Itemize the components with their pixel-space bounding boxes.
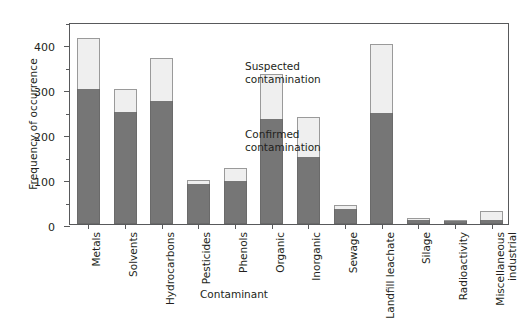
x-axis-label: Miscellaneous industrial: [495, 232, 518, 306]
x-tick: [492, 224, 493, 229]
bar-segment-suspected: [150, 58, 173, 101]
bar-segment-confirmed: [150, 101, 173, 224]
y-tick-label: 0: [48, 221, 55, 234]
x-tick: [345, 224, 346, 229]
bar-segment-suspected: [224, 168, 247, 181]
x-tick: [308, 224, 309, 229]
bar-segment-confirmed: [334, 209, 357, 224]
bar-group: [70, 24, 508, 224]
bar-segment-suspected: [77, 38, 100, 90]
y-tick-label: 100: [34, 176, 55, 189]
bar-landfill-leachate: [370, 44, 393, 224]
x-tick: [272, 224, 273, 229]
bar-pesticides: [187, 180, 210, 224]
x-axis-label: Radioactivity: [458, 232, 470, 300]
x-tick: [125, 224, 126, 229]
bar-solvents: [114, 89, 137, 224]
bar-hydrocarbons: [150, 58, 173, 224]
bar-segment-confirmed: [187, 184, 210, 224]
x-axis-label: Metals: [91, 232, 103, 266]
y-tick-label: 300: [34, 86, 55, 99]
bar-segment-confirmed: [297, 157, 320, 224]
plot-area: 0100200300400 Suspected contamination Co…: [69, 23, 509, 225]
x-axis-label: Pesticides: [201, 232, 213, 284]
annotation-confirmed: Confirmed contamination: [245, 128, 321, 154]
bar-segment-confirmed: [114, 112, 137, 224]
x-axis-label: Sewage: [348, 232, 360, 273]
x-tick: [88, 224, 89, 229]
x-tick: [418, 224, 419, 229]
bar-segment-suspected: [114, 89, 137, 111]
bar-sewage: [334, 205, 357, 224]
x-axis-label: Phenols: [238, 232, 250, 273]
x-tick: [198, 224, 199, 229]
x-axis-title: Contaminant: [69, 288, 399, 300]
x-tick: [382, 224, 383, 229]
x-tick: [162, 224, 163, 229]
bar-segment-confirmed: [370, 113, 393, 224]
chart-figure: Frequency of occurrence 0100200300400 Su…: [0, 0, 524, 320]
bar-segment-suspected: [480, 211, 503, 220]
y-tick-0: 0: [64, 226, 70, 227]
x-axis-label: Organic: [275, 232, 287, 273]
bar-miscellaneous-industrial: [480, 211, 503, 224]
x-tick: [235, 224, 236, 229]
x-axis-label: Silage: [421, 232, 433, 264]
x-axis-label: Solvents: [128, 232, 140, 277]
y-tick-label: 400: [34, 41, 55, 54]
x-axis-label: Landfill leachate: [385, 232, 397, 319]
annotation-suspected: Suspected contamination: [245, 60, 321, 86]
y-axis-title: Frequency of occurrence: [27, 29, 39, 219]
bar-phenols: [224, 168, 247, 224]
x-tick: [455, 224, 456, 229]
bar-segment-confirmed: [224, 181, 247, 224]
x-axis-label: Inorganic: [311, 232, 323, 281]
y-tick-label: 200: [34, 131, 55, 144]
bar-segment-suspected: [370, 44, 393, 112]
bar-metals: [77, 38, 100, 224]
bar-segment-confirmed: [77, 89, 100, 224]
